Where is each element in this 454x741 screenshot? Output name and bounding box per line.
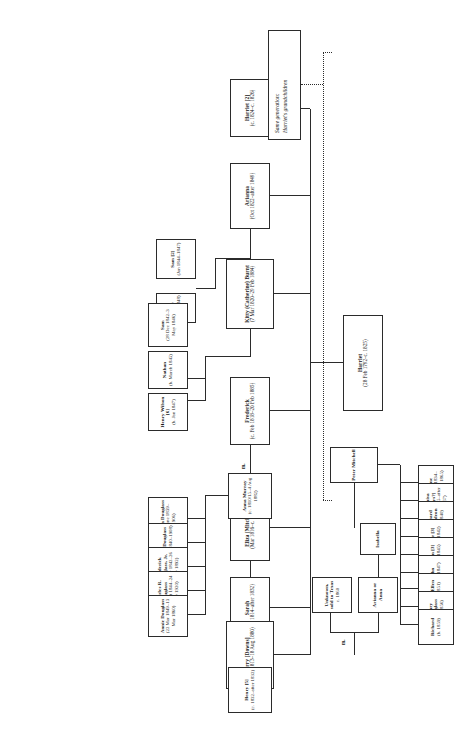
node-dates: (7 Mar 1820–29 Feb 1884) bbox=[250, 266, 256, 322]
frederick-children-bus-ext bbox=[205, 591, 206, 615]
eliza-children-trunk bbox=[378, 464, 400, 465]
legend-line-2: Harriet's grandchildren bbox=[281, 37, 289, 133]
dotted-generation-tick-right bbox=[323, 52, 332, 53]
node-annie[interactable]: Annie Douglass (22 Mar 1849–13 Mar 1860) bbox=[148, 595, 188, 637]
perry-spouse-brace bbox=[330, 632, 378, 633]
dotted-connector-stem bbox=[301, 84, 323, 85]
arianna-to-children bbox=[250, 229, 251, 259]
node-frederick[interactable]: Frederick (c. Feb 1818–20 Feb 1885) bbox=[230, 377, 270, 445]
frederick-children-bus bbox=[205, 496, 206, 591]
drop-mary bbox=[196, 288, 215, 289]
node-dates: c. 1860 bbox=[335, 588, 340, 602]
dotted-generation-tick-left bbox=[323, 500, 332, 501]
node-anna-murray[interactable]: Anna Murray (c. 1810/15–4 Aug 1882) bbox=[228, 473, 272, 519]
drop-ella-ellen bbox=[400, 588, 418, 589]
node-isabella[interactable]: Isabella bbox=[360, 523, 396, 555]
perry-spouse-link-2 bbox=[378, 613, 379, 633]
node-dates: (b. 1859) bbox=[436, 618, 441, 636]
node-dates: (c. 1810/15–4 Aug 1882) bbox=[247, 475, 258, 517]
arianna-children-bus bbox=[215, 259, 216, 289]
drop-rosetta bbox=[188, 518, 205, 519]
drop-sarah bbox=[270, 607, 310, 608]
node-richard[interactable]: Richard (b. 1859) bbox=[418, 609, 454, 645]
node-dates: (28 Dec 1842–3 May 1846) bbox=[165, 305, 176, 345]
eliza-spouse-link bbox=[354, 483, 355, 528]
drop-john bbox=[400, 572, 418, 573]
node-nathan[interactable]: Nathan (b. March 1845) bbox=[148, 351, 188, 389]
drop-nathan bbox=[188, 378, 205, 379]
drop-perry bbox=[270, 654, 310, 655]
drop-edward bbox=[400, 518, 418, 519]
drop-arianna bbox=[270, 195, 310, 196]
node-peter-mitchell[interactable]: Peter Mitchell bbox=[330, 447, 378, 483]
genealogy-chart: Same generation: Harriet's grandchildren… bbox=[0, 0, 454, 741]
node-henry-wilson[interactable]: Henry Wilson [6] (b. Jan 1847) bbox=[148, 393, 188, 431]
node-name: Arianna or Anna bbox=[372, 579, 383, 611]
drop-henry-wilson bbox=[188, 400, 205, 401]
node-dates: (b. March 1845) bbox=[168, 354, 173, 386]
drop-annie bbox=[188, 614, 205, 615]
node-sam[interactable]: Sam (28 Dec 1842–3 May 1846) bbox=[148, 303, 188, 347]
node-dates: (28 Feb 1792–c. 1825) bbox=[363, 339, 369, 386]
frederick-to-spouse bbox=[250, 445, 251, 473]
node-dates: (c. Feb 1818–20 Feb 1885) bbox=[250, 383, 256, 439]
marriage-label-frederick: m. bbox=[240, 463, 246, 469]
node-name: Isabella bbox=[375, 530, 381, 547]
node-arianna[interactable]: Arianna (Oct 1822–after 1849) bbox=[230, 163, 270, 229]
drop-charles bbox=[188, 590, 205, 591]
kitty-to-children bbox=[250, 329, 251, 357]
node-name: Peter Mitchell bbox=[351, 449, 357, 481]
drop-jane bbox=[400, 482, 418, 483]
eliza-children-bus-ext bbox=[400, 607, 401, 625]
legend-line-1: Same generation: bbox=[273, 37, 281, 133]
kitty-children-trunk bbox=[205, 356, 250, 357]
drop-eliza bbox=[270, 527, 310, 528]
drop-louisa bbox=[400, 500, 418, 501]
node-dates: (Oct 1822–after 1849) bbox=[250, 173, 256, 219]
node-unknown-texas[interactable]: Unknown, sold to Texas c. 1860 bbox=[312, 577, 352, 613]
perry-spouse-stem bbox=[354, 633, 355, 655]
marriage-label-perry: m. bbox=[340, 639, 346, 645]
node-sam2[interactable]: Sam [2] (Jan 1844–1847) bbox=[156, 239, 196, 279]
node-kitty[interactable]: Kitty (Catherine) Burnt (7 Mar 1820–29 F… bbox=[226, 259, 274, 329]
drop-frederick-jr bbox=[188, 566, 205, 567]
node-name: Unknown, sold to Texas bbox=[324, 579, 335, 611]
node-name: Henry Wilson [6] bbox=[160, 395, 171, 429]
drop-richard bbox=[400, 624, 418, 625]
node-henry5[interactable]: Henry [5] (c. 1832–after 1832) bbox=[228, 667, 272, 713]
children-bus bbox=[310, 109, 311, 655]
frederick-children-trunk bbox=[205, 495, 228, 496]
node-dates: (Jan 1844–1847) bbox=[176, 243, 181, 276]
drop-frederick bbox=[270, 410, 310, 411]
drop-mary-douglass bbox=[400, 606, 418, 607]
node-dates: (c. 1824–c. 1826) bbox=[250, 90, 256, 127]
node-arianna-anna[interactable]: Arianna or Anna bbox=[358, 577, 398, 613]
node-dates: (b. Jan 1847) bbox=[171, 399, 176, 425]
drop-susan3 bbox=[400, 554, 418, 555]
node-dates: (22 Mar 1849–13 Mar 1860) bbox=[165, 597, 176, 635]
legend-box: Same generation: Harriet's grandchildren bbox=[268, 30, 301, 140]
node-harriet-root[interactable]: Harriet (28 Feb 1792–c. 1825) bbox=[343, 315, 383, 411]
perry-spouse-link-1 bbox=[330, 613, 331, 633]
drop-lewis bbox=[188, 542, 205, 543]
drop-peter3 bbox=[400, 536, 418, 537]
drop-kitty bbox=[270, 293, 310, 294]
arianna-anna-to-child bbox=[378, 555, 379, 577]
kitty-children-bus bbox=[205, 357, 206, 401]
dotted-generation-line bbox=[323, 53, 324, 501]
node-dates: (c. 1832–after 1832) bbox=[250, 670, 255, 710]
node-harriet2[interactable]: Harriet [2] (c. 1824–c. 1826) bbox=[230, 79, 270, 137]
root-stem bbox=[310, 362, 343, 363]
